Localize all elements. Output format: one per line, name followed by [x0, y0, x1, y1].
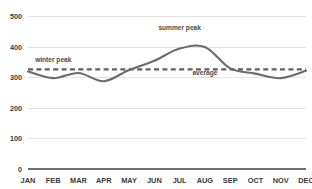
line-chart: 0100200300400500 JANFEBMARAPRMAYJUNJULAU…	[0, 0, 312, 189]
x-tick-label-mar: MAR	[70, 176, 87, 185]
series-line-monthly-value	[28, 45, 306, 81]
y-tick-label-0: 0	[18, 165, 22, 174]
x-tick-label-nov: NOV	[273, 176, 289, 185]
gridlines-group	[28, 17, 306, 139]
annotation-summer-peak: summer peak	[158, 24, 201, 32]
x-tick-label-oct: OCT	[248, 176, 264, 185]
x-tick-label-jan: JAN	[21, 176, 36, 185]
y-tick-label-500: 500	[10, 12, 22, 21]
y-axis-tick-labels: 0100200300400500	[10, 12, 22, 173]
y-tick-label-200: 200	[10, 104, 22, 113]
x-tick-label-sep: SEP	[223, 176, 238, 185]
x-tick-label-jul: JUL	[173, 176, 187, 185]
y-tick-label-300: 300	[10, 73, 22, 82]
annotation-winter-peak: winter peak	[34, 56, 72, 64]
chart-canvas: 0100200300400500 JANFEBMARAPRMAYJUNJULAU…	[0, 0, 312, 189]
x-tick-label-may: MAY	[121, 176, 137, 185]
x-tick-label-apr: APR	[96, 176, 112, 185]
x-tick-label-aug: AUG	[197, 176, 214, 185]
x-tick-label-jun: JUN	[147, 176, 162, 185]
annotation-average: average	[192, 69, 217, 77]
x-tick-label-feb: FEB	[46, 176, 61, 185]
x-tick-label-dec: DEC	[298, 176, 312, 185]
x-axis-tick-labels: JANFEBMARAPRMAYJUNJULAUGSEPOCTNOVDEC	[21, 176, 312, 185]
y-tick-label-400: 400	[10, 43, 22, 52]
y-tick-label-100: 100	[10, 134, 22, 143]
